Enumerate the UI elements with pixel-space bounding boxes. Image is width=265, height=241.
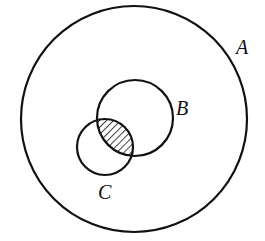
set-a-label: A bbox=[234, 36, 249, 58]
set-b-label: B bbox=[176, 97, 188, 119]
set-c-label: C bbox=[98, 181, 112, 203]
set-b-circle bbox=[97, 80, 173, 156]
venn-diagram: A B C bbox=[0, 0, 265, 241]
set-a-circle bbox=[21, 6, 247, 232]
